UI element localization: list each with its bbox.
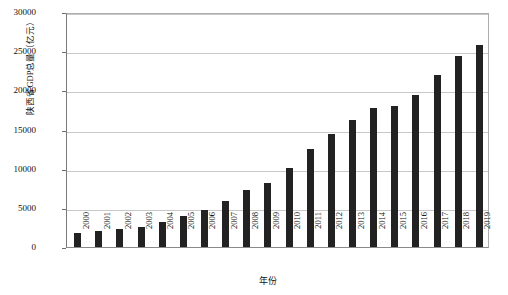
gridline (67, 171, 488, 172)
x-axis-tick-label: 2007 (229, 212, 239, 252)
x-axis-tick-label: 2014 (377, 212, 387, 252)
x-axis-tick-label: 2017 (440, 212, 450, 252)
gridline (67, 132, 488, 133)
y-axis-tick-label: 5000 (0, 203, 36, 213)
x-axis-tick-label: 2011 (313, 212, 323, 252)
x-axis-tick-label: 2000 (81, 212, 91, 252)
x-axis-tick-label: 2003 (144, 212, 154, 252)
x-axis-tick-label: 2012 (334, 212, 344, 252)
x-axis-tick-label: 2019 (482, 212, 492, 252)
x-axis-tick-label: 2016 (419, 212, 429, 252)
x-axis-tick-label: 2010 (292, 212, 302, 252)
x-axis-tick-label: 2004 (165, 212, 175, 252)
x-axis-tick-label: 2015 (398, 212, 408, 252)
x-axis-tick-label: 2008 (250, 212, 260, 252)
y-axis-tick-label: 20000 (0, 85, 36, 95)
x-axis-title-text: 年份 (259, 276, 277, 286)
y-axis-tick-mark (62, 248, 66, 249)
bar-chart: 陕西省GDP总量（亿元） 050001000015000200002500030… (0, 0, 508, 295)
bar (74, 233, 81, 247)
x-axis-tick-label: 2006 (207, 212, 217, 252)
x-axis-tick-label: 2009 (271, 212, 281, 252)
x-axis-tick-label: 2005 (186, 212, 196, 252)
gridline (67, 210, 488, 211)
x-axis-title: 年份 (0, 274, 508, 287)
y-axis-tick-label: 15000 (0, 125, 36, 135)
gridline (67, 92, 488, 93)
y-axis-tick-label: 25000 (0, 46, 36, 56)
gridline (67, 14, 488, 15)
x-axis-tick-label: 2013 (356, 212, 366, 252)
bar (349, 120, 356, 247)
y-axis-tick-label: 10000 (0, 164, 36, 174)
y-axis-tick-label: 30000 (0, 7, 36, 17)
gridline (67, 53, 488, 54)
x-axis-tick-label: 2018 (461, 212, 471, 252)
y-axis-tick-label: 0 (0, 242, 36, 252)
x-axis-tick-label: 2002 (123, 212, 133, 252)
x-axis-tick-label: 2001 (102, 212, 112, 252)
